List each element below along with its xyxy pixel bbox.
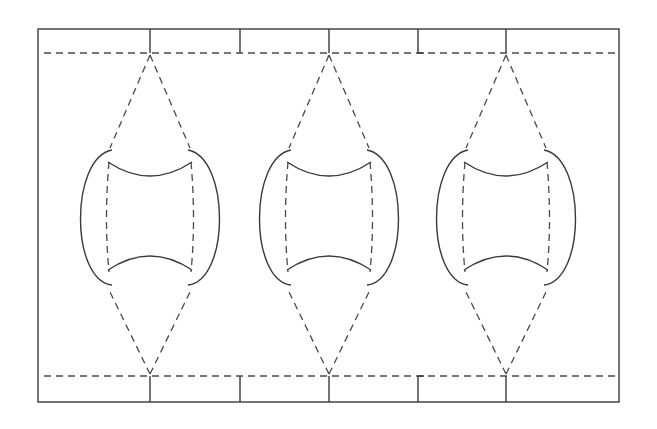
top-inner-arc xyxy=(464,162,548,176)
outer-right-arc xyxy=(367,150,399,285)
bottom-inner-arc xyxy=(464,256,548,270)
inner-right-dashed xyxy=(370,162,373,272)
lower-dashed-diamond xyxy=(289,292,369,374)
top-inner-arc xyxy=(287,162,371,176)
lower-dashed-diamond xyxy=(110,292,190,374)
upper-dashed-diamond xyxy=(110,55,190,148)
lens-unit-3 xyxy=(437,55,576,374)
outer-left-arc xyxy=(437,150,469,285)
upper-dashed-diamond xyxy=(289,55,369,148)
inner-right-dashed xyxy=(547,162,550,272)
inner-right-dashed xyxy=(191,162,194,272)
lens-unit-2 xyxy=(260,55,399,374)
fold-pattern-diagram xyxy=(0,0,657,429)
top-inner-arc xyxy=(108,162,192,176)
inner-left-dashed xyxy=(107,162,110,272)
outer-frame xyxy=(38,29,619,402)
outer-right-arc xyxy=(544,150,576,285)
inner-left-dashed xyxy=(286,162,289,272)
lens-unit-1 xyxy=(81,55,220,374)
bottom-inner-arc xyxy=(108,256,192,270)
lower-dashed-diamond xyxy=(466,292,546,374)
outer-left-arc xyxy=(81,150,113,285)
diagram-canvas xyxy=(0,0,657,429)
inner-left-dashed xyxy=(463,162,466,272)
outer-right-arc xyxy=(188,150,220,285)
outer-left-arc xyxy=(260,150,292,285)
frame xyxy=(38,29,619,402)
bottom-inner-arc xyxy=(287,256,371,270)
upper-dashed-diamond xyxy=(466,55,546,148)
units xyxy=(81,55,576,374)
